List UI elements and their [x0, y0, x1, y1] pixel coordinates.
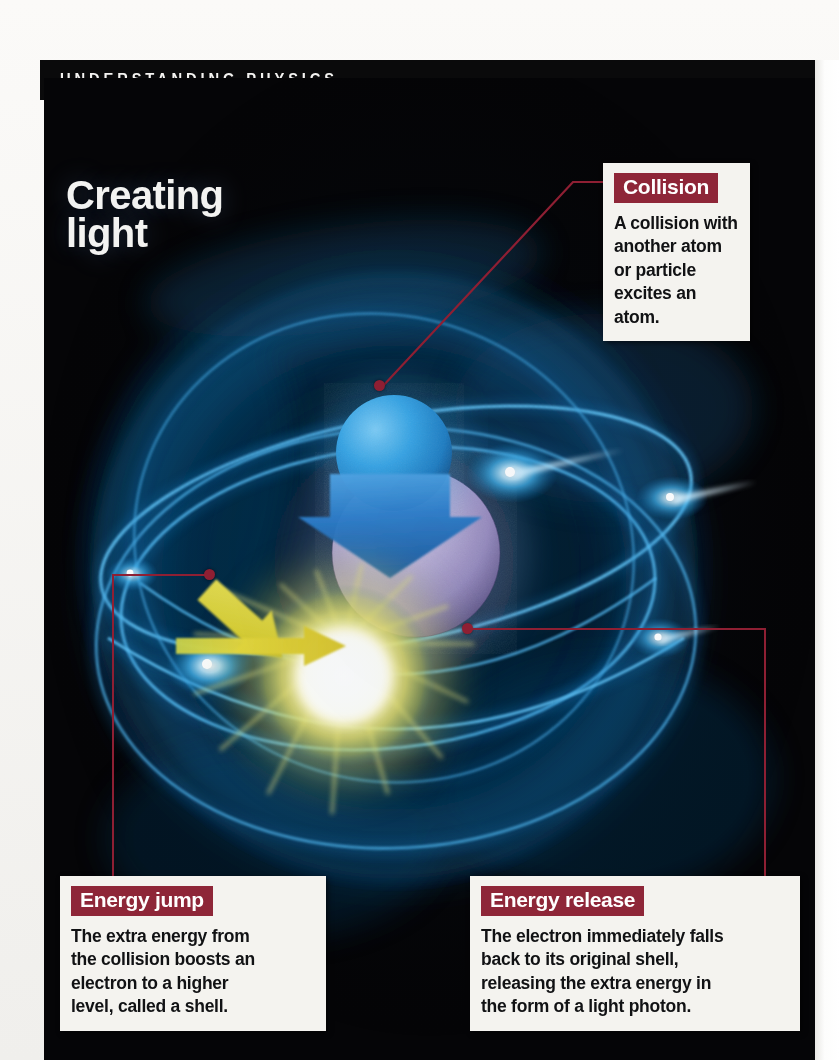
- leader-dot-collision: [374, 380, 385, 391]
- page-gutter: [815, 60, 839, 1060]
- callout-collision[interactable]: Collision A collision with another atom …: [603, 163, 750, 341]
- callout-collision-body: A collision with another atom or particl…: [614, 212, 739, 330]
- callout-energy-jump-body: The extra energy from the collision boos…: [71, 925, 315, 1019]
- leader-line-energy-jump-horizontal: [112, 574, 210, 576]
- leader-line-energy-release-vertical: [764, 628, 766, 878]
- page-background: UNDERSTANDING PHYSICS: [0, 0, 839, 1060]
- callout-energy-release[interactable]: Energy release The electron immediately …: [470, 876, 800, 1031]
- callout-collision-title: Collision: [614, 173, 718, 203]
- leader-line-energy-jump-vertical: [112, 574, 114, 878]
- callout-energy-release-body: The electron immediately falls back to i…: [481, 925, 789, 1019]
- callout-energy-jump[interactable]: Energy jump The extra energy from the co…: [60, 876, 326, 1031]
- leader-line-energy-release-horizontal: [467, 628, 766, 630]
- callout-energy-jump-title: Energy jump: [71, 886, 213, 916]
- page-title: Creating light: [66, 176, 223, 252]
- callout-energy-release-title: Energy release: [481, 886, 644, 916]
